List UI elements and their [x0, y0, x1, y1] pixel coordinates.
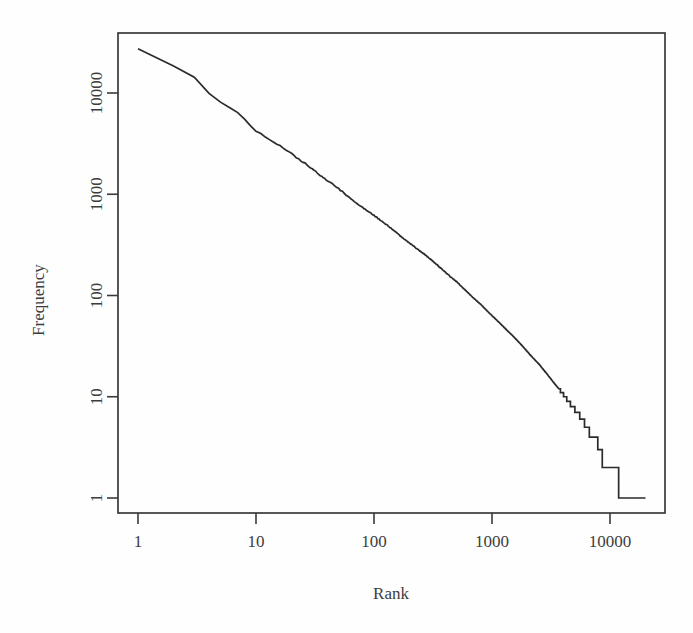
y-tick-label: 100 — [87, 283, 106, 309]
x-tick-label: 10000 — [589, 532, 632, 551]
y-tick-label: 1000 — [87, 177, 106, 211]
x-tick-label: 1000 — [475, 532, 509, 551]
y-tick-label: 1 — [87, 494, 106, 503]
y-tick-label: 10 — [87, 388, 106, 405]
y-tick-label: 10000 — [87, 72, 106, 115]
x-tick-label: 10 — [248, 532, 265, 551]
x-tick-label: 100 — [361, 532, 387, 551]
x-axis-title: Rank — [373, 584, 409, 603]
y-axis-title: Frequency — [29, 264, 48, 336]
zipf-rank-frequency-chart: 110100100010000 110100100010000 Rank Fre… — [0, 0, 693, 633]
chart-page: 110100100010000 110100100010000 Rank Fre… — [0, 0, 693, 633]
x-tick-label: 1 — [134, 532, 143, 551]
